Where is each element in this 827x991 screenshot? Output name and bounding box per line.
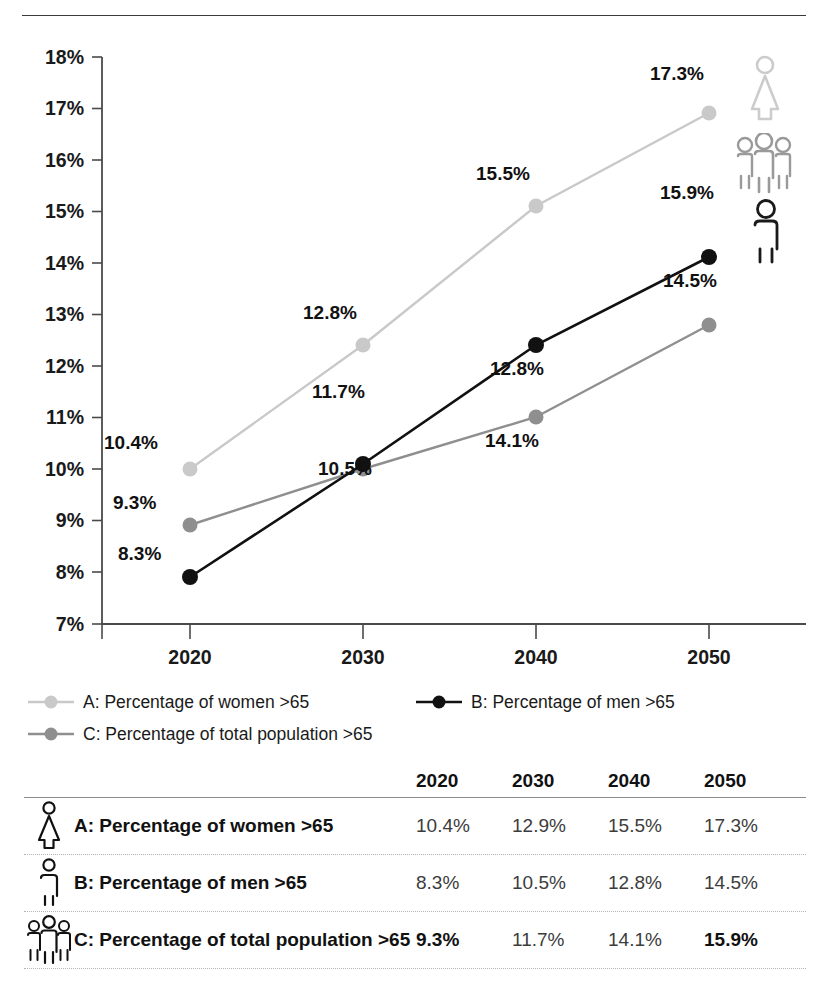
y-axis-ticks	[92, 57, 102, 624]
data-point-women-2020	[183, 462, 198, 477]
point-label-total-2040: 14.1%	[485, 430, 539, 452]
legend-item-men[interactable]: B: Percentage of men >65	[416, 692, 675, 713]
legend-marker-b	[416, 694, 462, 710]
legend-row-2: C: Percentage of total population >65	[28, 718, 808, 750]
point-label-total-2050: 15.9%	[660, 182, 714, 204]
point-label-men-2050: 14.5%	[663, 270, 717, 292]
legend-marker-c	[28, 726, 74, 742]
y-tick-11: 11%	[12, 406, 84, 429]
legend-row-1: A: Percentage of women >65 B: Percentage…	[28, 686, 808, 718]
table-cell-total-2020: 9.3%	[416, 929, 512, 951]
y-tick-18: 18%	[12, 46, 84, 69]
series-line-total	[183, 318, 717, 533]
table-cell-women-2050: 17.3%	[704, 815, 800, 837]
y-tick-15: 15%	[12, 200, 84, 223]
legend-item-total[interactable]: C: Percentage of total population >65	[28, 724, 416, 745]
x-tick-2040: 2040	[486, 646, 586, 669]
legend-marker-a	[28, 694, 74, 710]
x-tick-2020: 2020	[140, 646, 240, 669]
table-cell-men-2040: 12.8%	[608, 872, 704, 894]
point-label-men-2020: 8.3%	[118, 543, 161, 565]
table-col-2040: 2040	[608, 770, 704, 792]
data-point-women-2050	[702, 106, 717, 121]
top-divider	[22, 15, 806, 16]
table-cell-total-2050: 15.9%	[704, 929, 800, 951]
y-tick-17: 17%	[12, 97, 84, 120]
data-point-total-2020	[183, 518, 198, 533]
point-label-men-2030: 10.5%	[318, 458, 372, 480]
point-label-total-2020: 9.3%	[113, 492, 156, 514]
point-label-women-2050: 17.3%	[650, 63, 704, 85]
table-cell-men-2050: 14.5%	[704, 872, 800, 894]
table-row[interactable]: B: Percentage of men >65 8.3% 10.5% 12.8…	[24, 855, 806, 911]
table-cell-total-2030: 11.7%	[512, 929, 608, 951]
man-icon	[24, 858, 74, 908]
y-tick-16: 16%	[12, 149, 84, 172]
table-cell-men-2030: 10.5%	[512, 872, 608, 894]
data-point-total-2040	[529, 410, 544, 425]
group-icon	[24, 915, 74, 965]
line-chart: 18% 17% 16% 15% 14% 13% 12% 11% 10% 9% 8…	[0, 30, 827, 670]
point-label-total-2030: 11.7%	[312, 381, 365, 403]
data-table: 2020 2030 2040 2050 A: Percentage of wom…	[24, 762, 806, 969]
table-row-label-total: C: Percentage of total population >65	[74, 929, 416, 951]
table-cell-women-2020: 10.4%	[416, 815, 512, 837]
table-bottom-divider	[24, 968, 806, 969]
table-header-row: 2020 2030 2040 2050	[24, 762, 806, 792]
chart-page: 18% 17% 16% 15% 14% 13% 12% 11% 10% 9% 8…	[0, 0, 827, 991]
data-point-women-2040	[529, 199, 544, 214]
x-axis-ticks	[102, 624, 709, 639]
group-icon	[734, 133, 794, 199]
y-tick-9: 9%	[12, 509, 84, 532]
table-cell-women-2030: 12.9%	[512, 815, 608, 837]
table-row[interactable]: A: Percentage of women >65 10.4% 12.9% 1…	[24, 798, 806, 854]
y-tick-14: 14%	[12, 252, 84, 275]
table-row-label-men: B: Percentage of men >65	[74, 872, 416, 894]
point-label-women-2020: 10.4%	[104, 432, 158, 454]
woman-icon	[744, 55, 786, 127]
x-tick-2050: 2050	[659, 646, 759, 669]
data-point-men-2050	[701, 249, 717, 265]
legend-label-total: C: Percentage of total population >65	[83, 724, 372, 745]
y-tick-12: 12%	[12, 355, 84, 378]
y-tick-10: 10%	[12, 458, 84, 481]
x-tick-2030: 2030	[313, 646, 413, 669]
y-tick-8: 8%	[12, 561, 84, 584]
y-tick-7: 7%	[12, 613, 84, 636]
table-col-2050: 2050	[704, 770, 800, 792]
series-line-women	[183, 106, 717, 477]
data-point-men-2040	[528, 337, 544, 353]
table-row[interactable]: C: Percentage of total population >65 9.…	[24, 912, 806, 968]
y-tick-13: 13%	[12, 303, 84, 326]
chart-legend: A: Percentage of women >65 B: Percentage…	[28, 686, 808, 750]
chart-canvas	[0, 30, 827, 670]
point-label-men-2040: 12.8%	[490, 358, 544, 380]
point-label-women-2040: 15.5%	[476, 163, 530, 185]
table-col-2020: 2020	[416, 770, 512, 792]
table-cell-men-2020: 8.3%	[416, 872, 512, 894]
point-label-women-2030: 12.8%	[303, 302, 357, 324]
data-point-total-2050	[702, 318, 717, 333]
data-point-women-2030	[356, 338, 371, 353]
table-row-label-women: A: Percentage of women >65	[74, 815, 416, 837]
woman-icon	[24, 801, 74, 851]
legend-label-men: B: Percentage of men >65	[471, 692, 675, 713]
table-cell-total-2040: 14.1%	[608, 929, 704, 951]
table-cell-women-2040: 15.5%	[608, 815, 704, 837]
data-point-men-2020	[182, 569, 198, 585]
man-icon	[746, 198, 786, 268]
legend-item-women[interactable]: A: Percentage of women >65	[28, 692, 416, 713]
legend-label-women: A: Percentage of women >65	[83, 692, 309, 713]
table-col-2030: 2030	[512, 770, 608, 792]
